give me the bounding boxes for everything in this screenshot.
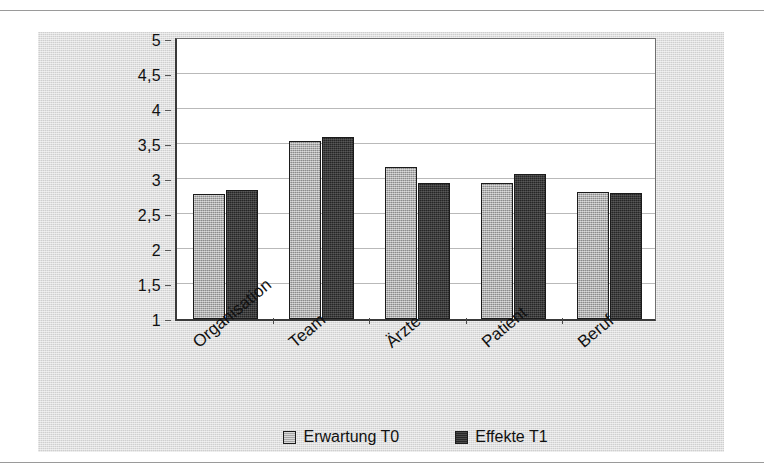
y-axis-tick-mark — [165, 250, 171, 251]
bar-group — [481, 39, 546, 319]
legend-label: Erwartung T0 — [303, 428, 399, 446]
bar-group — [577, 39, 642, 319]
bar[interactable] — [385, 167, 417, 319]
y-axis-tick-label: 2 — [152, 242, 161, 260]
chart-panel: 11,522,533,544,55 OrganisationTeamÄrzteP… — [38, 32, 724, 452]
y-axis-tick-mark — [165, 215, 171, 216]
bar-group — [289, 39, 354, 319]
y-axis-tick-label: 1,5 — [138, 277, 161, 295]
bar[interactable] — [514, 174, 546, 319]
x-axis-tick-mark — [562, 318, 563, 324]
y-axis-tick-mark — [165, 180, 171, 181]
chart-figure: 11,522,533,544,55 OrganisationTeamÄrzteP… — [0, 0, 764, 472]
bar[interactable] — [193, 194, 225, 319]
y-axis-tick-label: 3,5 — [138, 137, 161, 155]
y-axis: 11,522,533,544,55 — [38, 38, 171, 321]
legend-item[interactable]: Effekte T1 — [455, 428, 547, 446]
legend-swatch-icon — [283, 431, 296, 444]
bar[interactable] — [418, 183, 450, 320]
y-axis-tick-label: 4,5 — [138, 67, 161, 85]
y-axis-tick-mark — [165, 320, 171, 321]
x-axis-tick-mark — [466, 318, 467, 324]
y-axis-tick-label: 2,5 — [138, 207, 161, 225]
chart-legend: Erwartung T0Effekte T1 — [175, 424, 656, 450]
y-axis-tick-mark — [165, 145, 171, 146]
legend-label: Effekte T1 — [475, 428, 547, 446]
y-axis-tick-mark — [165, 285, 171, 286]
bar[interactable] — [289, 141, 321, 320]
bar[interactable] — [577, 192, 609, 319]
y-axis-tick-label: 1 — [152, 312, 161, 330]
plot-area — [175, 38, 656, 321]
bar-group — [385, 39, 450, 319]
bar[interactable] — [481, 183, 513, 320]
bar[interactable] — [610, 193, 642, 319]
y-axis-tick-label: 3 — [152, 172, 161, 190]
bar[interactable] — [322, 137, 354, 319]
y-axis-tick-mark — [165, 75, 171, 76]
y-axis-tick-label: 4 — [152, 102, 161, 120]
bottom-divider-rule — [0, 462, 764, 463]
x-axis-tick-mark — [369, 318, 370, 324]
bar-group — [193, 39, 258, 319]
y-axis-tick-mark — [165, 110, 171, 111]
top-divider-rule — [0, 10, 764, 11]
y-axis-tick-label: 5 — [152, 32, 161, 50]
legend-swatch-icon — [455, 431, 468, 444]
y-axis-tick-mark — [165, 40, 171, 41]
bar-series-container — [177, 39, 655, 319]
legend-item[interactable]: Erwartung T0 — [283, 428, 399, 446]
x-axis-category-labels: OrganisationTeamÄrztePatientBeruf — [175, 327, 656, 422]
x-axis-tick-mark — [273, 318, 274, 324]
